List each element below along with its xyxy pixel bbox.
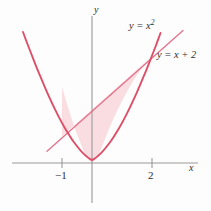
math-figure: y x −1 2 y = x2 y = x + 2 (0, 0, 211, 211)
parabola-annotation-base: y = x (129, 20, 151, 31)
parabola-annotation-exponent: 2 (151, 18, 155, 27)
line-annotation: y = x + 2 (157, 50, 196, 61)
y-axis-label: y (94, 5, 98, 15)
parabola-annotation: y = x2 (129, 21, 154, 32)
x-tick-label-neg1: −1 (55, 170, 67, 181)
plot-canvas (0, 0, 211, 211)
x-axis-label: x (189, 163, 193, 173)
x-tick-label-2: 2 (148, 170, 154, 181)
